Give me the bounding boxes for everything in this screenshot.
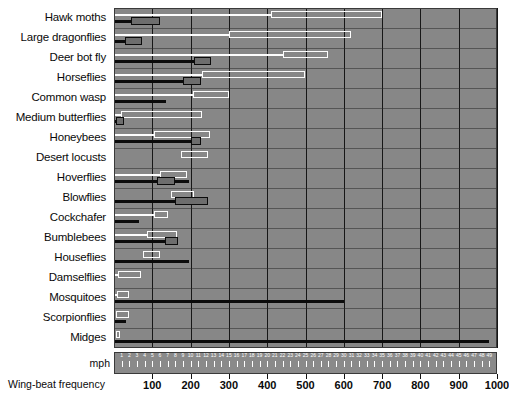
- row-separator: [114, 208, 497, 209]
- mph-tick-label: 25: [303, 352, 309, 359]
- mph-tick-mark: [489, 361, 490, 367]
- mph-tick-label: 43: [441, 352, 447, 359]
- mph-tick-mark: [183, 361, 184, 367]
- mph-tick-label: 34: [372, 352, 378, 359]
- speed-bar-stem: [114, 340, 489, 343]
- speed-bar-stem: [114, 300, 344, 303]
- wingbeat-bar-box: [283, 51, 329, 58]
- mph-tick-mark: [451, 361, 452, 367]
- wingbeat-bar-stem: [114, 14, 271, 16]
- speed-bar-stem: [114, 260, 189, 263]
- speed-bar-box: [125, 37, 141, 45]
- mph-tick-label: 13: [211, 352, 217, 359]
- mph-tick-label: 11: [196, 352, 201, 359]
- mph-tick-label: 15: [226, 352, 232, 359]
- wingbeat-bar-box: [116, 331, 121, 338]
- mph-tick-mark: [206, 361, 207, 367]
- mph-tick-label: 12: [203, 352, 209, 359]
- speed-bar-box: [131, 17, 160, 25]
- mph-tick-label: 27: [318, 352, 324, 359]
- row-separator: [114, 88, 497, 89]
- speed-bar-stem: [114, 100, 166, 103]
- speed-bar-box: [165, 237, 179, 245]
- plot-area: [114, 8, 497, 348]
- wingbeat-bar-box: [154, 211, 167, 218]
- category-label: Large dragonflies: [21, 31, 106, 43]
- row-separator: [114, 308, 497, 309]
- wingbeat-bar-stem: [114, 34, 229, 36]
- category-label: Hawk moths: [45, 11, 106, 23]
- gridline: [420, 8, 421, 348]
- wingbeat-bar-box: [117, 291, 129, 298]
- row-separator: [114, 228, 497, 229]
- category-label: Horseflies: [57, 71, 106, 83]
- category-label: Scorpionflies: [43, 311, 106, 323]
- mph-tick-label: 47: [471, 352, 477, 359]
- mph-tick-mark: [244, 361, 245, 367]
- mph-tick-label: 5: [151, 352, 154, 359]
- wingbeat-axis: 1002003004005006007008009001000: [114, 374, 497, 376]
- mph-tick-label: 31: [349, 352, 355, 359]
- mph-tick-mark: [237, 361, 238, 367]
- speed-bar-stem: [114, 140, 201, 143]
- mph-tick-mark: [328, 361, 329, 367]
- mph-tick-label: 3: [136, 352, 139, 359]
- category-label: Bumblebees: [44, 231, 106, 243]
- mph-axis-strip: 1234567891011121314151617181920212223242…: [114, 352, 497, 374]
- wingbeat-tick-label: 100: [143, 379, 161, 391]
- mph-tick-label: 6: [159, 352, 162, 359]
- mph-tick-label: 28: [326, 352, 332, 359]
- mph-tick-label: 41: [425, 352, 431, 359]
- speed-bar-stem: [114, 180, 189, 183]
- mph-tick-mark: [298, 361, 299, 367]
- row-separator: [114, 128, 497, 129]
- mph-tick-mark: [367, 361, 368, 367]
- mph-tick-label: 48: [479, 352, 485, 359]
- mph-tick-label: 30: [341, 352, 347, 359]
- category-label: Common wasp: [32, 91, 107, 103]
- mph-tick-label: 16: [234, 352, 240, 359]
- row-separator: [114, 68, 497, 69]
- mph-tick-mark: [405, 361, 406, 367]
- wingbeat-bar-box: [121, 111, 202, 118]
- category-label: Hoverflies: [57, 171, 106, 183]
- mph-tick-mark: [290, 361, 291, 367]
- mph-tick-mark: [168, 361, 169, 367]
- mph-tick-mark: [252, 361, 253, 367]
- mph-tick-label: 8: [174, 352, 177, 359]
- mph-tick-mark: [267, 361, 268, 367]
- mph-tick-mark: [175, 361, 176, 367]
- speed-bar-box: [194, 57, 211, 65]
- mph-tick-mark: [306, 361, 307, 367]
- row-separator: [114, 108, 497, 109]
- mph-tick-label: 39: [410, 352, 416, 359]
- mph-tick-label: 9: [182, 352, 185, 359]
- mph-tick-mark: [229, 361, 230, 367]
- wingbeat-tick-label: 1000: [485, 379, 509, 391]
- wingbeat-bar-box: [118, 271, 141, 278]
- wingbeat-bar-stem: [114, 54, 283, 56]
- row-separator: [114, 248, 497, 249]
- mph-tick-mark: [152, 361, 153, 367]
- wingbeat-tick-label: 500: [296, 379, 314, 391]
- mph-tick-label: 35: [379, 352, 385, 359]
- mph-tick-label: 21: [272, 352, 278, 359]
- speed-bar-box: [175, 197, 208, 205]
- mph-tick-label: 1: [120, 352, 123, 359]
- category-labels: Hawk mothsLarge dragonfliesDeer bot flyH…: [0, 8, 112, 348]
- row-separator: [114, 28, 497, 29]
- mph-tick-label: 10: [188, 352, 194, 359]
- category-label: Houseflies: [54, 251, 106, 263]
- mph-axis-title: mph: [90, 357, 110, 369]
- mph-tick-mark: [466, 361, 467, 367]
- mph-tick-mark: [374, 361, 375, 367]
- mph-tick-mark: [344, 361, 345, 367]
- wingbeat-tick-label: 600: [335, 379, 353, 391]
- wingbeat-tick-label: 300: [220, 379, 238, 391]
- wingbeat-bar-stem: [114, 94, 193, 96]
- speed-bar-box: [157, 177, 175, 185]
- wingbeat-axis-title: Wing-beat frequency: [8, 378, 105, 390]
- mph-tick-label: 17: [241, 352, 247, 359]
- gridline: [382, 8, 383, 348]
- gridline: [229, 8, 230, 348]
